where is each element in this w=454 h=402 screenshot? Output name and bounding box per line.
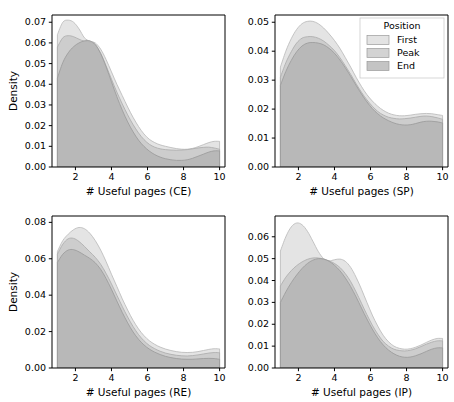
plot-sp: 0.000.010.020.030.040.05246810# Useful p… <box>229 5 454 201</box>
y-tick-label: 0.03 <box>248 296 269 307</box>
x-axis-label: # Useful pages (SP) <box>309 185 414 197</box>
x-tick-label: 6 <box>367 171 373 182</box>
x-tick-label: 6 <box>144 372 150 383</box>
y-tick-label: 0.02 <box>25 120 46 131</box>
y-tick-label: 0.05 <box>248 16 269 27</box>
plot-re: 0.000.020.040.060.08246810# Useful pages… <box>6 206 231 402</box>
x-tick-label: 2 <box>295 171 301 182</box>
x-tick-label: 8 <box>181 372 187 383</box>
panel-ip: 0.000.010.020.030.040.050.06246810# Usef… <box>229 206 454 402</box>
y-tick-label: 0.01 <box>248 340 269 351</box>
x-tick-label: 10 <box>214 372 226 383</box>
y-tick-label: 0.04 <box>248 275 269 286</box>
kde-figure: 0.000.010.020.030.040.050.060.07246810# … <box>0 0 454 402</box>
y-tick-label: 0.07 <box>25 16 46 27</box>
legend-swatch-first <box>367 36 389 45</box>
y-tick-label: 0.06 <box>25 253 46 264</box>
legend-label-first: First <box>397 34 417 45</box>
y-tick-label: 0.06 <box>25 37 46 48</box>
legend-swatch-peak <box>367 49 389 58</box>
y-tick-label: 0.04 <box>25 78 46 89</box>
panel-ce: 0.000.010.020.030.040.050.060.07246810# … <box>6 5 231 201</box>
x-tick-label: 6 <box>367 372 373 383</box>
legend-label-end: End <box>397 60 415 71</box>
x-axis-label: # Useful pages (IP) <box>311 386 412 398</box>
y-tick-label: 0.05 <box>248 253 269 264</box>
legend-title: Position <box>384 20 421 31</box>
panel-sp: 0.000.010.020.030.040.05246810# Useful p… <box>229 5 454 201</box>
x-tick-label: 4 <box>108 372 114 383</box>
y-tick-label: 0.01 <box>248 132 269 143</box>
y-tick-label: 0.05 <box>25 58 46 69</box>
y-tick-label: 0.00 <box>248 161 269 172</box>
y-tick-label: 0.02 <box>248 318 269 329</box>
y-axis-label: Density <box>7 272 19 312</box>
x-tick-label: 4 <box>108 171 114 182</box>
x-tick-label: 4 <box>331 372 337 383</box>
y-tick-label: 0.00 <box>25 161 46 172</box>
y-tick-label: 0.08 <box>25 216 46 227</box>
y-tick-label: 0.02 <box>248 103 269 114</box>
x-axis-label: # Useful pages (RE) <box>86 386 192 398</box>
x-tick-label: 8 <box>404 372 410 383</box>
y-tick-label: 0.04 <box>25 289 46 300</box>
y-tick-label: 0.01 <box>25 140 46 151</box>
x-tick-label: 10 <box>214 171 226 182</box>
x-tick-label: 10 <box>437 171 449 182</box>
y-tick-label: 0.00 <box>248 362 269 373</box>
y-tick-label: 0.00 <box>25 362 46 373</box>
x-tick-label: 6 <box>144 171 150 182</box>
panel-re: 0.000.020.040.060.08246810# Useful pages… <box>6 206 231 402</box>
legend-label-peak: Peak <box>397 47 420 58</box>
y-tick-label: 0.03 <box>248 74 269 85</box>
y-tick-label: 0.06 <box>248 231 269 242</box>
x-tick-label: 4 <box>331 171 337 182</box>
x-tick-label: 10 <box>437 372 449 383</box>
legend-swatch-end <box>367 62 389 71</box>
x-axis-label: # Useful pages (CE) <box>86 185 192 197</box>
y-tick-label: 0.02 <box>25 326 46 337</box>
x-tick-label: 2 <box>295 372 301 383</box>
y-axis-label: Density <box>7 71 19 111</box>
x-tick-label: 8 <box>181 171 187 182</box>
y-tick-label: 0.03 <box>25 99 46 110</box>
x-tick-label: 8 <box>404 171 410 182</box>
x-tick-label: 2 <box>72 372 78 383</box>
plot-ce: 0.000.010.020.030.040.050.060.07246810# … <box>6 5 231 201</box>
x-tick-label: 2 <box>72 171 78 182</box>
plot-ip: 0.000.010.020.030.040.050.06246810# Usef… <box>229 206 454 402</box>
y-tick-label: 0.04 <box>248 45 269 56</box>
